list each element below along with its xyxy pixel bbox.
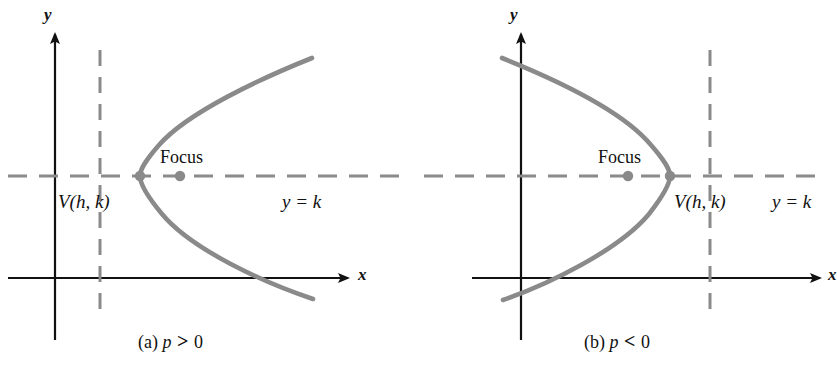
axis-of-symmetry-label: y = k — [282, 192, 321, 211]
parabola-curve — [502, 58, 670, 300]
vertex-label: V(h, k) — [674, 192, 726, 211]
panel-b-caption: (b) p < 0 — [584, 330, 650, 353]
panel-parabola-p-negative: y x Focus V(h, k) y = k (b) p < 0 — [416, 0, 833, 366]
x-axis-label: x — [358, 266, 367, 283]
caption-variable: p — [610, 332, 619, 352]
parabola-curve — [140, 58, 313, 299]
panel-a-caption: (a) p > 0 — [138, 330, 203, 353]
caption-relation: < — [623, 330, 636, 352]
focus-point — [175, 171, 185, 181]
caption-prefix: (a) — [138, 332, 158, 352]
panel-a-graphics — [0, 0, 417, 366]
focus-label: Focus — [598, 148, 641, 166]
y-axis-label: y — [510, 6, 518, 23]
y-axis-label: y — [44, 6, 52, 23]
vertex-point — [135, 171, 145, 181]
axis-of-symmetry-label: y = k — [772, 192, 811, 211]
caption-prefix: (b) — [584, 332, 605, 352]
caption-relation: > — [176, 330, 189, 352]
x-axis-label: x — [828, 266, 837, 283]
panel-b-graphics — [416, 0, 833, 366]
focus-label: Focus — [160, 148, 203, 166]
focus-point — [623, 171, 633, 181]
vertex-point — [665, 171, 675, 181]
caption-value: 0 — [194, 332, 203, 352]
caption-value: 0 — [641, 332, 650, 352]
vertex-label: V(h, k) — [58, 192, 110, 211]
panel-parabola-p-positive: y x Focus V(h, k) y = k (a) p > 0 — [0, 0, 417, 366]
